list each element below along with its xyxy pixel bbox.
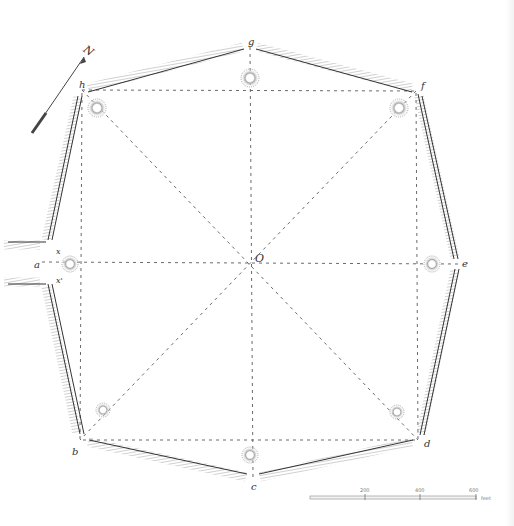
label-d: d	[424, 438, 430, 449]
scale-unit: feet	[481, 495, 491, 501]
page-edge	[506, 0, 514, 526]
label-g: g	[248, 36, 254, 47]
label-a: a	[34, 259, 40, 270]
mound	[96, 403, 110, 417]
mound	[390, 405, 404, 419]
mound	[242, 447, 258, 463]
mound	[88, 99, 106, 117]
label-e: e	[462, 258, 468, 269]
mound	[424, 256, 440, 272]
mound	[390, 99, 408, 117]
scale-bar: 200 400 600 feet	[310, 487, 491, 501]
earthwork-plan-diagram: N g f e d c b a h x x' O 200 400 600 fee…	[0, 0, 514, 526]
scale-tick-200: 200	[360, 487, 370, 493]
scale-tick-400: 400	[415, 487, 425, 493]
label-h: h	[79, 79, 85, 90]
north-label: N	[80, 42, 96, 59]
label-x: x	[56, 247, 61, 256]
north-arrow: N	[32, 42, 96, 133]
mound	[241, 69, 259, 87]
label-c: c	[251, 481, 257, 492]
label-x-prime: x'	[56, 276, 63, 285]
mound	[62, 256, 78, 272]
scale-tick-600: 600	[469, 487, 479, 493]
label-center-o: O	[255, 252, 264, 265]
label-b: b	[72, 446, 78, 457]
label-f: f	[420, 80, 427, 91]
